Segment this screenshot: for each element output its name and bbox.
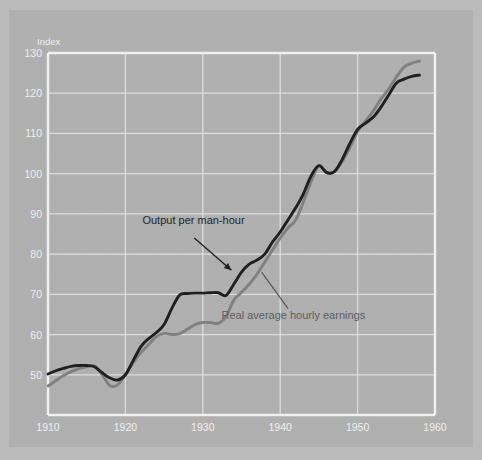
y-tick-110: 110 <box>25 127 42 139</box>
x-tick-1930: 1930 <box>191 421 215 433</box>
y-tick-120: 120 <box>24 87 42 99</box>
annotation-label-0: Output per man-hour <box>142 214 244 226</box>
chart-figure: 5060708090100110120130 19101920193019401… <box>0 0 482 460</box>
y-tick-80: 80 <box>30 248 42 260</box>
y-axis-unit-label: Index <box>37 36 60 47</box>
x-tick-1950: 1950 <box>346 421 370 433</box>
y-tick-60: 60 <box>30 329 42 341</box>
line-chart: 5060708090100110120130 19101920193019401… <box>0 0 482 460</box>
x-tick-1920: 1920 <box>114 421 138 433</box>
y-tick-130: 130 <box>24 47 42 59</box>
annotation-label-1: Real average hourly earnings <box>222 309 366 321</box>
y-tick-100: 100 <box>24 168 42 180</box>
y-tick-70: 70 <box>30 288 42 300</box>
x-tick-1910: 1910 <box>36 421 60 433</box>
y-tick-90: 90 <box>30 208 42 220</box>
y-tick-50: 50 <box>30 369 42 381</box>
x-tick-1940: 1940 <box>269 421 293 433</box>
y-axis-tick-labels: 5060708090100110120130 <box>24 47 42 381</box>
x-tick-1960: 1960 <box>423 421 447 433</box>
x-axis-tick-labels: 191019201930194019501960 <box>36 421 447 433</box>
